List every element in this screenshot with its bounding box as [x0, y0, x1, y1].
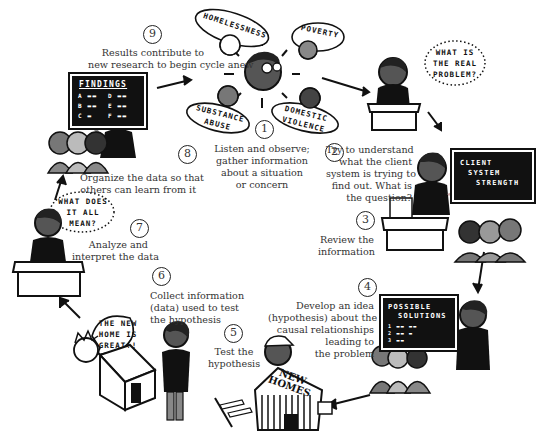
step-caption-2: Try to understandwhat the client system …: [326, 144, 412, 204]
step-caption-4: Develop an idea(hypothesis) about the ca…: [268, 300, 374, 360]
step-caption-7: Analyze andinterpret the data: [72, 239, 148, 263]
step-number-5: 5: [224, 324, 243, 343]
step-caption-5: Test thehypothesis: [204, 346, 264, 370]
step-number-4: 4: [358, 278, 377, 297]
step-caption-3: Review theinformation: [318, 234, 374, 258]
speech-what-mean: WHAT DOES IT ALL MEAN?: [52, 196, 114, 229]
step-caption-1: Listen and observe;gather information ab…: [212, 143, 312, 191]
step-number-9: 9: [143, 25, 162, 44]
step-caption-6: Collect information(data) used to test t…: [150, 290, 240, 326]
step-number-1: 1: [255, 120, 274, 139]
step-number-3: 3: [356, 211, 375, 230]
board-client-system-strength: CLIENT SYSTEM STRENGTH: [452, 150, 534, 202]
step-number-8: 8: [178, 145, 197, 164]
speech-real-problem: WHAT IS THE REAL PROBLEM?: [425, 47, 485, 80]
step-number-7: 7: [130, 219, 149, 238]
speech-new-home: THE NEW HOME IS GREAT!!: [96, 318, 140, 351]
step-caption-8: Organize the data so thatothers can lear…: [80, 172, 196, 196]
step-caption-9: Results contribute tonew research to beg…: [88, 47, 218, 71]
board-possible-solutions: POSSIBLE SOLUTIONS 1 ▬▬ ▬▬ 2 ▬▬ ▬ 3 ▬▬: [381, 296, 457, 350]
board-findings: FINDINGS A ▬▬ D ▬▬ B ▬▬ E ▬▬ C ▬ F ▬▬: [70, 74, 146, 128]
step-number-6: 6: [152, 267, 171, 286]
